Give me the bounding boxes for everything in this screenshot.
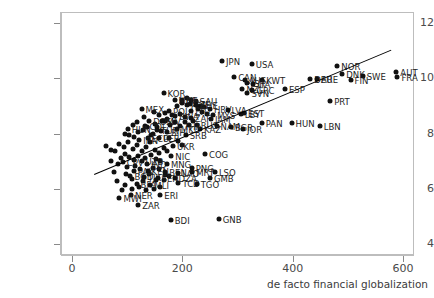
data-point: [108, 159, 113, 164]
data-point: [129, 186, 134, 191]
data-point: [202, 152, 207, 157]
y-tick-mark: [54, 189, 60, 190]
data-point: [121, 145, 126, 150]
data-point: [134, 181, 139, 186]
data-point: [249, 61, 254, 66]
data-point: [328, 98, 333, 103]
y-tick-label: 8: [408, 127, 434, 140]
data-point: [168, 217, 173, 222]
data-point-label: ERI: [164, 191, 178, 201]
x-tick-label: 200: [162, 262, 202, 275]
x-tick-label: 0: [52, 262, 92, 275]
data-point: [194, 181, 199, 186]
data-point: [145, 161, 150, 166]
data-point: [115, 178, 120, 183]
y-tick-mark: [54, 244, 60, 245]
data-point-label: JPN: [226, 57, 240, 67]
data-point: [170, 143, 175, 148]
data-point-label: GRC: [256, 86, 274, 96]
data-point-label: MEX: [146, 105, 165, 115]
data-point: [172, 98, 177, 103]
y-tick-label: 4: [408, 237, 434, 250]
data-point: [128, 174, 133, 179]
data-point: [259, 121, 264, 126]
data-point: [135, 142, 140, 147]
data-point-label: USA: [256, 60, 274, 70]
y-tick-mark: [54, 78, 60, 79]
y-tick-mark: [54, 23, 60, 24]
data-point: [228, 125, 233, 130]
data-point: [117, 196, 122, 201]
data-point-label: UKR: [177, 142, 195, 152]
data-point: [158, 192, 163, 197]
data-point: [122, 182, 127, 187]
data-point: [131, 134, 136, 139]
data-point: [241, 127, 246, 132]
data-point: [317, 123, 322, 128]
data-point: [167, 108, 172, 113]
data-point: [130, 146, 135, 151]
y-tick-mark: [54, 134, 60, 135]
data-point: [395, 74, 400, 79]
data-point: [148, 183, 153, 188]
y-tick-label: 12: [408, 16, 434, 29]
x-tick-label: 400: [273, 262, 313, 275]
data-point-label: GNB: [223, 215, 242, 225]
data-point: [232, 74, 237, 79]
data-point-label: LBY: [245, 110, 260, 120]
data-point-label: ZAR: [142, 201, 160, 211]
data-point: [282, 87, 287, 92]
x-axis-spine: [61, 255, 414, 256]
data-point: [348, 77, 353, 82]
data-point: [137, 137, 142, 142]
data-point: [289, 121, 294, 126]
data-point-label: PRT: [334, 97, 350, 107]
data-point-label: COG: [209, 150, 228, 160]
data-point-label: HUN: [296, 119, 315, 129]
data-point-label: TGO: [201, 180, 219, 190]
data-point: [136, 203, 141, 208]
data-point: [308, 76, 313, 81]
data-point: [340, 72, 345, 77]
data-point-label: FIN: [355, 76, 369, 86]
data-point: [154, 128, 159, 133]
data-point: [113, 149, 118, 154]
data-point: [335, 63, 340, 68]
data-point: [161, 90, 166, 95]
data-point-label: HUN: [132, 125, 151, 135]
data-point: [220, 59, 225, 64]
data-point: [188, 116, 193, 121]
data-point: [111, 170, 116, 175]
scatter-plot-figure: 4681012 0200400600 JPNUSANORCANAUSAUTFRA…: [0, 0, 434, 298]
x-tick-label: 600: [383, 262, 423, 275]
data-point-label: FRA: [401, 73, 417, 83]
data-point: [157, 150, 162, 155]
data-point-label: LBN: [324, 122, 341, 132]
data-point: [119, 188, 124, 193]
x-axis-title: de facto financial globalization: [267, 278, 428, 290]
y-axis-spine: [60, 12, 61, 255]
data-point-label: IRN: [143, 136, 158, 146]
data-point-label: PAN: [266, 119, 283, 129]
data-point-label: JOR: [247, 125, 262, 135]
data-point: [216, 216, 221, 221]
data-point: [169, 153, 174, 158]
data-point: [125, 126, 130, 131]
data-point: [126, 139, 131, 144]
y-tick-label: 6: [408, 182, 434, 195]
data-point-label: BDI: [175, 216, 190, 226]
data-point-label: SWE: [367, 72, 386, 82]
data-point: [139, 107, 144, 112]
data-point: [176, 180, 181, 185]
data-point: [250, 88, 255, 93]
